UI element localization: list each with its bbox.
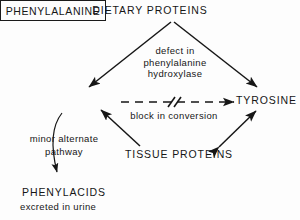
node-phenylacids: PHENYLACIDS — [22, 187, 106, 198]
annotation-defect-line-3: hydroxylase — [122, 69, 228, 79]
pku-metabolic-pathway-diagram: DIETARY PROTEINS PHENYLALANINE TYROSINE … — [0, 0, 300, 220]
block-slash-icon — [168, 97, 181, 107]
annotation-block-in-conversion: block in conversion — [126, 111, 222, 121]
annotation-defect-line-2: phenylalanine — [122, 58, 228, 68]
annotation-defect-in-phenylalanine-hydroxylase: defect in phenylalanine hydroxylase — [122, 46, 228, 81]
arrow-tyrosine-tissue-bidirectional — [219, 111, 256, 147]
note-excreted-in-urine: excreted in urine — [20, 202, 96, 212]
node-tissue-proteins: TISSUE PROTEINS — [125, 149, 233, 160]
annotation-minor-alternate-pathway: minor alternate pathway — [12, 134, 116, 159]
annotation-defect-line-1: defect in — [122, 46, 228, 56]
annotation-minor-line-2: pathway — [12, 147, 116, 157]
node-tyrosine: TYROSINE — [236, 95, 297, 106]
annotation-minor-line-1: minor alternate — [12, 134, 116, 144]
node-dietary-proteins: DIETARY PROTEINS — [0, 5, 300, 16]
